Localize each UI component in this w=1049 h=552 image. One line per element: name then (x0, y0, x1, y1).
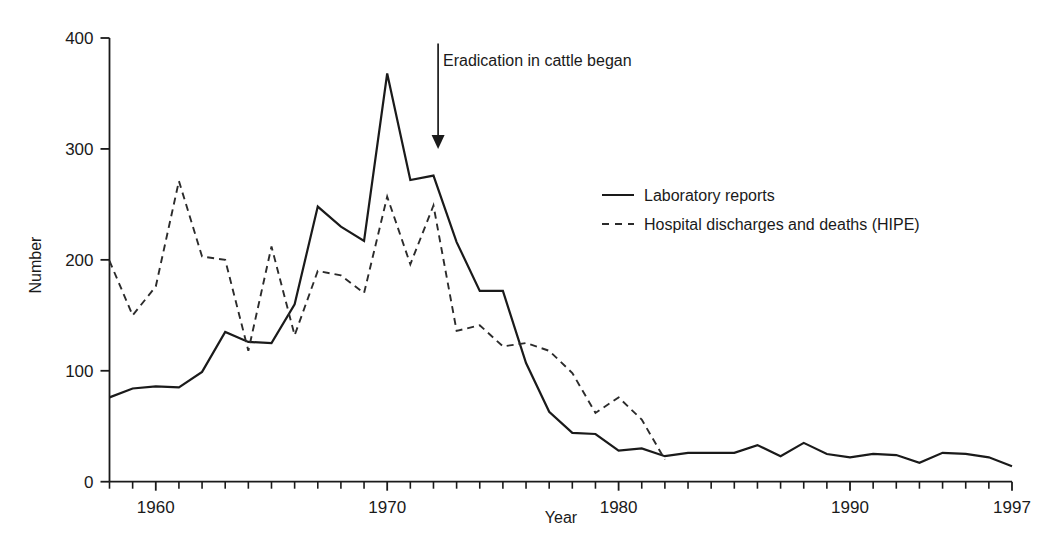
chart-container: 0100200300400 19601970198019901997 Eradi… (0, 0, 1049, 552)
y-tick-label: 100 (65, 362, 93, 381)
y-tick-label: 300 (65, 140, 93, 159)
legend-label-laboratory-reports: Laboratory reports (644, 187, 775, 204)
y-tick-label: 200 (65, 251, 93, 270)
legend: Laboratory reports Hospital discharges a… (602, 187, 920, 233)
x-tick-label: 1970 (368, 498, 406, 517)
legend-label-hospital-discharges: Hospital discharges and deaths (HIPE) (644, 216, 920, 233)
y-axis-tick-labels: 0100200300400 (65, 29, 93, 492)
x-axis-tick-labels: 19601970198019901997 (137, 498, 1031, 517)
line-chart: 0100200300400 19601970198019901997 Eradi… (0, 0, 1049, 552)
x-axis-ticks (110, 482, 1013, 491)
annotation-label: Eradication in cattle began (443, 52, 632, 69)
series-laboratory-reports (110, 74, 1013, 467)
x-tick-label: 1990 (831, 498, 869, 517)
x-axis-title: Year (545, 509, 578, 526)
y-tick-label: 0 (84, 473, 93, 492)
x-tick-label: 1960 (137, 498, 175, 517)
x-tick-label: 1997 (993, 498, 1031, 517)
series-hospital-discharges (110, 181, 665, 459)
x-tick-label: 1980 (600, 498, 638, 517)
y-tick-label: 400 (65, 29, 93, 48)
y-axis-ticks (101, 38, 110, 482)
y-axis-title: Number (27, 236, 44, 294)
